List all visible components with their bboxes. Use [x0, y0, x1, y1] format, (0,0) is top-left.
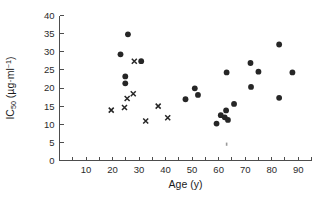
plot-svg: 0510152025303540102030405060708090Age (y…	[0, 0, 323, 213]
y-tick-label-5: 5	[49, 137, 54, 148]
y-tick-label-15: 15	[44, 101, 55, 112]
plot-artifact-mark	[226, 143, 228, 146]
data-point-cross: 32.5, 10.9	[143, 118, 148, 123]
y-tick-label-10: 10	[44, 119, 55, 130]
y-tick-label-40: 40	[44, 10, 55, 21]
data-point-cross: 27.8, 18.4	[131, 91, 136, 96]
data-point-circle: 52.2, 18.1	[195, 92, 201, 98]
scatter-plot-figure: 0510152025303540102030405060708090Age (y…	[0, 0, 323, 213]
data-point-cross: 28.2, 27.4	[132, 59, 137, 64]
x-axis-title: Age (y)	[169, 178, 203, 190]
data-point-circle: 65.8, 15.6	[231, 101, 237, 107]
x-tick-label-70: 70	[240, 164, 251, 175]
x-tick-label-50: 50	[187, 164, 198, 175]
series-cross: 19.5, 13.924.5, 14.625.5, 17.127.8, 18.4…	[109, 59, 170, 124]
x-tick-label-90: 90	[293, 164, 304, 175]
data-point-circle: 23, 29.3	[118, 51, 124, 57]
data-point-circle: 24.8, 23.2	[122, 74, 128, 80]
data-point-circle: 82.8, 17.3	[276, 95, 282, 101]
data-point-circle: 30.8, 27.4	[138, 58, 144, 64]
x-tick-label-10: 10	[81, 164, 92, 175]
data-point-circle: 24.8, 21.3	[122, 80, 128, 86]
data-point-circle: 25.8, 34.8	[125, 31, 131, 37]
x-tick-label-60: 60	[213, 164, 224, 175]
x-tick-label-30: 30	[134, 164, 145, 175]
data-point-cross: 24.5, 14.6	[122, 105, 127, 110]
data-point-cross: 19.5, 13.9	[109, 108, 114, 113]
data-point-circle: 87.8, 24.3	[290, 70, 296, 76]
y-tick-label-20: 20	[44, 82, 55, 93]
y-axis-title-text: IC50 (µg·ml−1)	[4, 56, 19, 119]
y-axis-title: IC50 (µg·ml−1)	[4, 56, 19, 119]
data-point-cross: 25.5, 17.1	[125, 96, 130, 101]
x-tick-label-20: 20	[107, 164, 118, 175]
axis-spines	[60, 16, 312, 161]
data-point-cross: 40.8, 11.8	[165, 115, 170, 120]
y-tick-label-25: 25	[44, 64, 55, 75]
data-point-circle: 82.8, 32	[276, 42, 282, 48]
series-filled-circle: 23, 29.324.8, 23.224.8, 21.325.8, 34.830…	[118, 31, 296, 126]
data-point-circle: 62.8, 13.8	[223, 108, 229, 114]
data-point-circle: 51, 19.9	[192, 85, 198, 91]
data-point-cross: 37.2, 15	[156, 104, 161, 109]
data-point-circle: 59.2, 10.2	[214, 121, 220, 127]
data-point-circle: 72.2, 20.3	[248, 84, 254, 90]
x-tick-label-80: 80	[266, 164, 277, 175]
y-tick-label-30: 30	[44, 46, 55, 57]
y-tick-label-35: 35	[44, 28, 55, 39]
data-point-circle: 63.5, 11.2	[225, 117, 231, 123]
y-tick-label-0: 0	[49, 155, 54, 166]
data-point-circle: 72, 26.9	[248, 60, 254, 66]
data-point-circle: 63, 24.3	[224, 70, 230, 76]
data-point-circle: 47.5, 16.9	[183, 96, 189, 102]
x-tick-label-40: 40	[160, 164, 171, 175]
data-point-circle: 75, 24.5	[256, 69, 262, 75]
